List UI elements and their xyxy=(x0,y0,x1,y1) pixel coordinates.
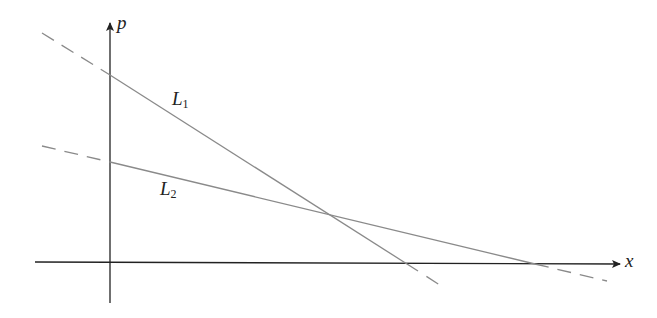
y-axis-label: p xyxy=(117,12,127,34)
line-l2-label-name: L xyxy=(160,178,171,199)
x-axis-label: x xyxy=(625,250,633,272)
diagram-canvas: p x L1 L2 xyxy=(0,0,657,318)
x-axis-label-text: x xyxy=(625,250,633,271)
line-l1-label-subscript: 1 xyxy=(183,97,189,111)
line-l1-label-name: L xyxy=(172,88,183,109)
y-axis-label-text: p xyxy=(117,12,127,33)
line-l2-label: L2 xyxy=(160,178,177,202)
line-l2 xyxy=(42,146,607,281)
line-l1-label: L1 xyxy=(172,88,189,112)
line-l2-label-subscript: 2 xyxy=(171,187,177,201)
line-l1 xyxy=(42,33,446,289)
diagram-svg xyxy=(0,0,657,318)
